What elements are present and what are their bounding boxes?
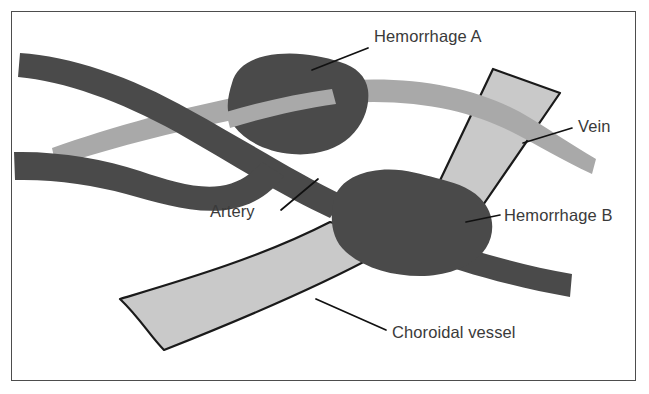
label-vein: Vein [578, 117, 611, 135]
vessel-diagram: Hemorrhage A Vein Artery Hemorrhage B Ch… [0, 0, 649, 394]
label-hemorrhage-b: Hemorrhage B [504, 206, 613, 224]
label-choroidal-vessel: Choroidal vessel [392, 323, 516, 341]
label-artery: Artery [210, 202, 255, 220]
figure-root: Hemorrhage A Vein Artery Hemorrhage B Ch… [0, 0, 649, 394]
label-hemorrhage-a: Hemorrhage A [374, 27, 482, 45]
leader-choroidal-vessel [316, 299, 386, 330]
